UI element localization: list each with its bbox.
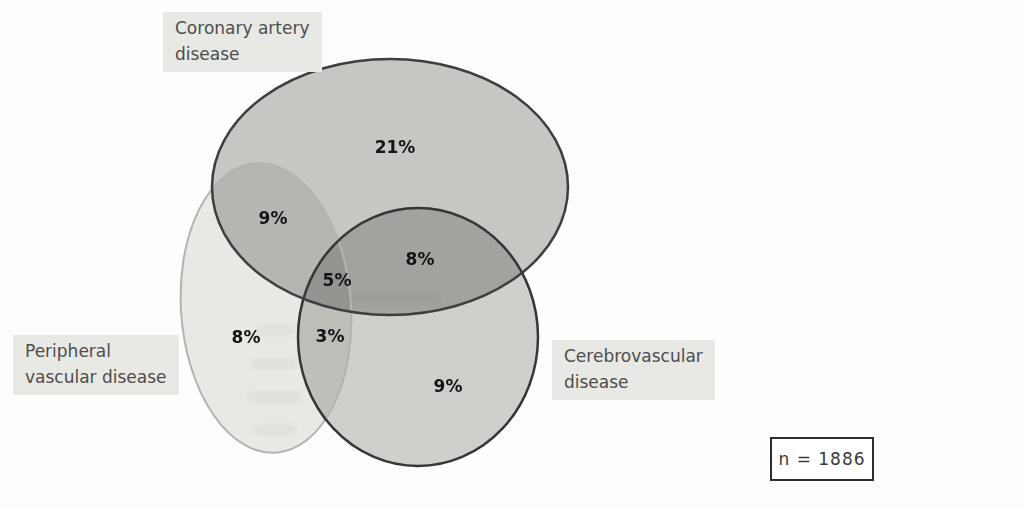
venn-figure: 21% 9% 8% 5% 8% 3% 9% Coronary artery di… (0, 0, 1025, 509)
sample-size-box: n = 1886 (770, 437, 874, 481)
label-line: Cerebrovascular (564, 343, 703, 369)
coronary-artery-disease-label: Coronary artery disease (163, 12, 322, 72)
label-line: vascular disease (25, 364, 167, 390)
venn-shapes (0, 0, 1025, 509)
sample-size-value: n = 1886 (778, 449, 865, 469)
region-value-all-three: 5% (323, 270, 352, 290)
region-value-peripheral-only: 8% (232, 327, 261, 347)
label-line: Coronary artery (175, 15, 310, 41)
label-line: disease (175, 41, 310, 67)
region-value-coronary-cerebrovascular: 8% (406, 249, 435, 269)
label-line: disease (564, 369, 703, 395)
cerebrovascular-disease-label: Cerebrovascular disease (552, 340, 715, 400)
region-value-coronary-peripheral: 9% (259, 208, 288, 228)
peripheral-vascular-disease-label: Peripheral vascular disease (13, 335, 179, 395)
region-value-peripheral-cerebrovascular: 3% (316, 326, 345, 346)
label-line: Peripheral (25, 338, 167, 364)
region-value-cerebrovascular-only: 9% (434, 376, 463, 396)
region-value-coronary-only: 21% (375, 137, 416, 157)
